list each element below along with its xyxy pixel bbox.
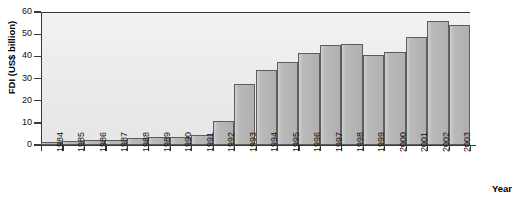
x-axis-title: Year	[492, 183, 512, 194]
x-tick-label-1987: 1987	[120, 132, 129, 152]
x-tick-label-2003: 2003	[463, 132, 472, 152]
bar-shading	[385, 53, 404, 144]
x-tick-label-1997: 1997	[335, 132, 344, 152]
bar-2003	[449, 25, 470, 145]
bar-shading	[342, 45, 361, 144]
x-tick-label-1995: 1995	[292, 132, 301, 152]
x-tick-label-1989: 1989	[163, 132, 172, 152]
x-tick-label-1998: 1998	[356, 132, 365, 152]
x-tick-label-2000: 2000	[399, 132, 408, 152]
bar-shading	[321, 46, 340, 144]
x-tick-label-1984: 1984	[56, 132, 65, 152]
x-tick-label-1991: 1991	[206, 132, 215, 152]
y-tick	[34, 78, 41, 79]
bar-shading	[450, 26, 469, 144]
x-tick-label-2002: 2002	[442, 132, 451, 152]
fdi-bar-chart: FDI (US$ billion) 0102030405060 19841985…	[0, 0, 518, 197]
y-tick-label: 0	[12, 140, 32, 149]
y-tick-label: 60	[12, 7, 32, 16]
y-tick	[34, 100, 41, 101]
y-tick	[34, 11, 41, 12]
x-tick-label-1988: 1988	[142, 132, 151, 152]
bar-shading	[407, 38, 426, 144]
x-tick-label-1986: 1986	[99, 132, 108, 152]
bar-2002	[427, 21, 448, 145]
bar-shading	[364, 56, 383, 144]
x-tick-label-1996: 1996	[313, 132, 322, 152]
x-tick-label-1990: 1990	[184, 132, 193, 152]
x-tick-label-1992: 1992	[227, 132, 236, 152]
x-tick-label-1999: 1999	[377, 132, 386, 152]
x-tick-label-1993: 1993	[249, 132, 258, 152]
bar-shading	[299, 54, 318, 144]
bar-2001	[406, 37, 427, 145]
y-tick-label: 50	[12, 29, 32, 38]
y-tick-label: 30	[12, 74, 32, 83]
bar-shading	[428, 22, 447, 144]
x-tick-label-1985: 1985	[77, 132, 86, 152]
bar-1997	[320, 45, 341, 145]
x-tick	[41, 145, 42, 151]
x-tick-label-1994: 1994	[270, 132, 279, 152]
y-tick	[34, 34, 41, 35]
y-tick-label: 20	[12, 96, 32, 105]
y-tick-label: 40	[12, 51, 32, 60]
x-tick-label-2001: 2001	[420, 132, 429, 152]
y-tick-label: 10	[12, 118, 32, 127]
y-tick	[34, 122, 41, 123]
bar-series	[41, 12, 470, 145]
bar-1998	[341, 44, 362, 145]
y-tick	[34, 144, 41, 145]
y-tick	[34, 56, 41, 57]
